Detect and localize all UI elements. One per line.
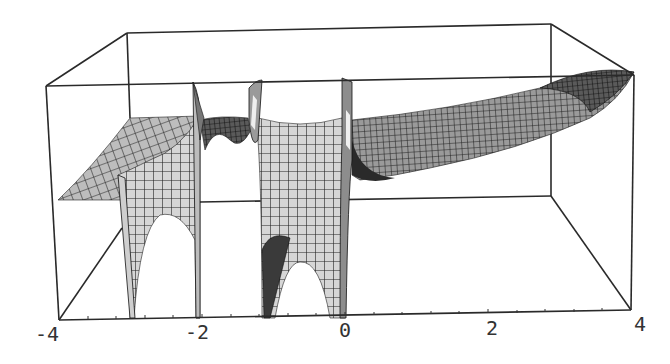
x-tick-label-0: 0 [339,318,351,342]
x-tick-label-neg2: -2 [185,320,209,344]
x-tick-label-2: 2 [486,316,498,340]
x-tick-label-4: 4 [634,312,646,336]
surface-plot [0,0,670,364]
x-tick-label-neg4: -4 [35,322,59,346]
